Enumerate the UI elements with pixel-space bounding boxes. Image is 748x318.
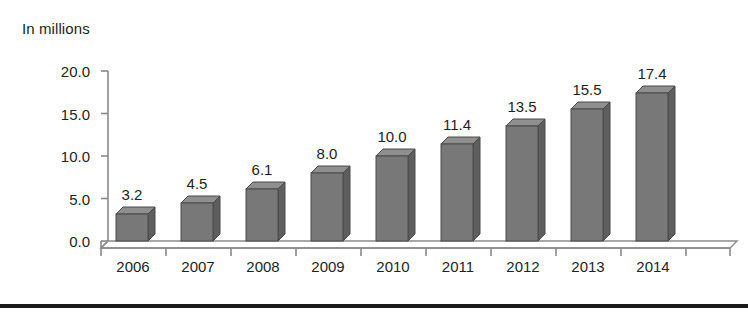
y-tick-label-15: 15.0 (28, 105, 90, 122)
bar-2012[interactable] (506, 119, 545, 241)
value-label-2008: 6.1 (232, 161, 292, 178)
y-tick-label-10: 10.0 (28, 148, 90, 165)
value-label-2006: 3.2 (102, 186, 162, 203)
bottom-divider-rule (0, 304, 748, 308)
x-tick-label-2014: 2014 (620, 258, 686, 275)
chart-floor (101, 241, 737, 248)
bar-2006[interactable] (116, 207, 155, 241)
y-axis (101, 71, 108, 248)
x-tick-label-2009: 2009 (295, 258, 361, 275)
chart-page: In millions (0, 0, 748, 318)
x-tick-label-2010: 2010 (360, 258, 426, 275)
bar-2010[interactable] (376, 149, 415, 241)
x-tick-label-2007: 2007 (165, 258, 231, 275)
x-tick-label-2013: 2013 (555, 258, 621, 275)
value-label-2011: 11.4 (427, 116, 487, 133)
bar-chart-plot-area (0, 0, 748, 300)
bar-2007[interactable] (181, 196, 220, 241)
bar-2008[interactable] (246, 182, 285, 241)
value-label-2012: 13.5 (492, 98, 552, 115)
x-tick-label-2011: 2011 (425, 258, 491, 275)
chart-svg (0, 0, 748, 300)
x-axis-ticks (101, 248, 730, 256)
value-label-2013: 15.5 (557, 81, 617, 98)
bar-2013[interactable] (571, 102, 610, 241)
y-tick-label-0: 0.0 (28, 233, 90, 250)
bar-2009[interactable] (311, 166, 350, 241)
value-label-2007: 4.5 (167, 175, 227, 192)
y-axis-ticks (101, 71, 108, 241)
y-tick-label-5: 5.0 (28, 190, 90, 207)
value-label-2010: 10.0 (362, 128, 422, 145)
x-tick-label-2008: 2008 (230, 258, 296, 275)
bar-2011[interactable] (441, 137, 480, 241)
value-label-2009: 8.0 (297, 145, 357, 162)
y-tick-label-20: 20.0 (28, 63, 90, 80)
x-tick-label-2012: 2012 (490, 258, 556, 275)
x-tick-label-2006: 2006 (100, 258, 166, 275)
value-label-2014: 17.4 (622, 65, 682, 82)
bar-2014[interactable] (636, 86, 675, 241)
